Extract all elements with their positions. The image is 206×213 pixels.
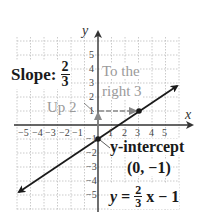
x-tick-neg-5: −5 — [18, 128, 29, 138]
slope-prefix: Slope: — [11, 65, 56, 84]
equation-suffix: x − 1 — [146, 188, 179, 205]
y-intercept-label: y-intercept — [110, 139, 184, 155]
point-3-1 — [136, 108, 142, 114]
run-annotation-line1: To the — [102, 64, 140, 79]
equation-label: y = 2 3 x − 1 — [110, 184, 179, 209]
x-tick-5: 5 — [162, 128, 167, 138]
y-axis-label: y — [82, 24, 88, 38]
x-tick-4: 4 — [149, 128, 154, 138]
y-tick-neg-2: −2 — [86, 148, 97, 158]
x-tick-neg-3: −3 — [45, 128, 56, 138]
y-tick-5: 5 — [89, 50, 94, 60]
y-intercept-coordinates: (0, −1) — [127, 160, 171, 176]
x-tick-1: 1 — [108, 128, 113, 138]
x-tick-3: 3 — [135, 128, 140, 138]
y-tick-3: 3 — [89, 78, 94, 88]
slope-annotation: Slope: 2 3 — [10, 60, 71, 89]
x-axis-label: x — [185, 108, 191, 122]
y-tick-neg-4: −4 — [86, 176, 97, 186]
slope-numerator: 2 — [61, 60, 70, 75]
x-tick-neg-1: −1 — [72, 128, 83, 138]
equation-fraction: 2 3 — [134, 184, 142, 209]
y-tick-neg-1: −1 — [86, 134, 97, 144]
y-tick-1: 1 — [89, 106, 94, 116]
equation-denominator: 3 — [134, 197, 142, 209]
y-tick-neg-3: −3 — [86, 162, 97, 172]
y-tick-4: 4 — [89, 64, 94, 74]
x-tick-2: 2 — [122, 128, 127, 138]
x-tick-neg-2: −2 — [59, 128, 70, 138]
coordinate-plane — [0, 0, 206, 213]
intercept-label-pointer — [100, 140, 110, 148]
y-tick-2: 2 — [89, 92, 94, 102]
rise-annotation: Up 2 — [47, 100, 77, 115]
slope-denominator: 3 — [61, 75, 70, 89]
slope-fraction: 2 3 — [61, 60, 70, 89]
y-tick-neg-5: −5 — [86, 190, 97, 200]
equation-prefix: y = — [110, 188, 130, 205]
x-tick-neg-4: −4 — [32, 128, 43, 138]
run-annotation-line2: right 3 — [102, 84, 142, 99]
